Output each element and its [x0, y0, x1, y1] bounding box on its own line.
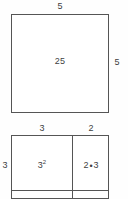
- rectangle-left-dimension-label: 3: [2, 160, 7, 170]
- square-top-dimension-label: 5: [57, 1, 62, 11]
- rectangle-cell-top-left-label: 32: [38, 160, 46, 170]
- diagram-canvas: 5 5 25 3 2 3 32 2•3: [0, 0, 128, 199]
- rectangle-top-dimension-label-left: 3: [39, 123, 44, 133]
- cell-right-factor-text: 3: [94, 160, 99, 170]
- rectangle-horizontal-divider: [11, 190, 109, 191]
- rectangle-cell-top-right-label: 2•3: [83, 160, 98, 171]
- cell-exponent-text: 2: [43, 159, 46, 165]
- rectangle-top-dimension-label-right: 2: [88, 123, 93, 133]
- square-area-label: 25: [55, 56, 65, 66]
- square-right-dimension-label: 5: [114, 57, 119, 67]
